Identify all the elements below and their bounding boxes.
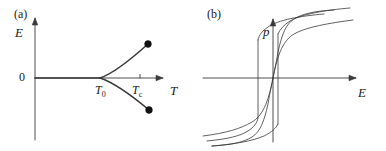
- panel-b-x-axis-arrow: [349, 75, 356, 81]
- panel-b-x-axis-label: E: [358, 86, 366, 99]
- physics-figure: (a) E T 0 T0 Tc (b) p E: [0, 0, 386, 151]
- panel-b-graphics: [0, 0, 386, 151]
- hysteresis-curve-steep-right: [273, 10, 334, 78]
- panel-b-y-axis-label: p: [263, 25, 270, 38]
- hysteresis-curve-inner: [212, 8, 350, 146]
- panel-b-tag: (b): [207, 8, 221, 20]
